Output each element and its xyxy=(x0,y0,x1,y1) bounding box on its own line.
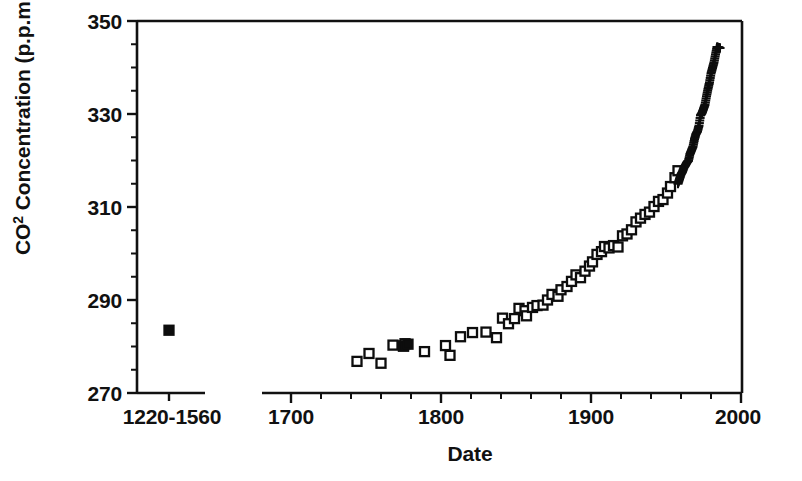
data-point-open-square xyxy=(482,328,491,337)
x-tick-label-2000: 2000 xyxy=(715,405,761,428)
x-tick-label-1800: 1800 xyxy=(418,405,464,428)
y-axis-title-suffix: Concentration (p.p.m.) xyxy=(11,0,34,216)
data-point-open-square xyxy=(365,349,374,358)
y-axis-title-prefix: CO xyxy=(11,224,34,255)
x-tick-label-1900: 1900 xyxy=(568,405,614,428)
co2-concentration-chart: 270 290 310 330 350 CO2 Concentration (p… xyxy=(0,0,802,481)
data-point-open-square xyxy=(492,333,501,342)
y-tick-label-310: 310 xyxy=(88,196,122,219)
data-point-open-square xyxy=(441,341,450,350)
x-axis-ticks xyxy=(291,393,741,403)
x-tick-label-1700: 1700 xyxy=(268,405,314,428)
data-point-open-square xyxy=(353,357,362,366)
y-tick-label-330: 330 xyxy=(88,103,122,126)
data-point-filled-square xyxy=(165,326,174,335)
data-point-open-square xyxy=(456,332,465,341)
chart-canvas: 270 290 310 330 350 CO2 Concentration (p… xyxy=(0,0,802,481)
x-tick-label-break: 1220-1560 xyxy=(123,405,222,428)
y-tick-label-270: 270 xyxy=(88,382,122,405)
data-point-open-square xyxy=(377,359,386,368)
x-axis-tick-labels: 1220-1560 1700 1800 1900 2000 xyxy=(123,405,761,428)
series-medieval-ice-core xyxy=(165,326,174,335)
data-point-filled-square xyxy=(404,340,413,349)
x-axis-title: Date xyxy=(447,442,492,465)
svg-text:CO2 Concentration (p.p.m.): CO2 Concentration (p.p.m.) xyxy=(10,0,34,255)
data-point-open-square xyxy=(510,314,519,323)
data-point-open-square xyxy=(389,341,398,350)
data-point-open-square xyxy=(420,347,429,356)
data-point-open-square xyxy=(446,351,455,360)
y-axis-tick-labels: 270 290 310 330 350 xyxy=(88,10,122,405)
y-axis-title: CO2 Concentration (p.p.m.) xyxy=(10,0,34,255)
data-point-open-square xyxy=(468,328,477,337)
series-mauna-loa-plus xyxy=(674,43,725,189)
series-ice-core-squares xyxy=(353,166,683,368)
y-axis-ticks xyxy=(127,21,137,393)
y-tick-label-350: 350 xyxy=(88,10,122,33)
y-tick-label-290: 290 xyxy=(88,289,122,312)
data-point-open-square xyxy=(614,242,623,251)
